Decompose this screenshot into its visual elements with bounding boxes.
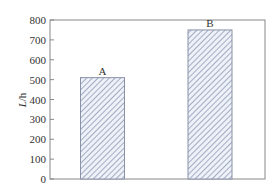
y-axis-label: L/h <box>16 92 28 108</box>
bar-chart: 0100200300400500600700800 AB L/h <box>0 0 280 194</box>
bar-b <box>188 30 232 179</box>
y-tick-label: 200 <box>30 133 47 145</box>
y-tick-label: 300 <box>30 113 47 125</box>
y-tick-label: 600 <box>30 54 47 66</box>
bar-label-b: B <box>206 17 213 29</box>
y-tick-label: 800 <box>30 14 47 26</box>
y-tick-label: 400 <box>30 94 47 106</box>
y-tick-label: 700 <box>30 34 47 46</box>
bar-a <box>81 78 125 179</box>
y-tick-label: 100 <box>30 153 47 165</box>
y-tick-label: 500 <box>30 74 47 86</box>
bars: AB <box>81 17 233 179</box>
bar-label-a: A <box>99 65 107 77</box>
y-tick-label: 0 <box>41 173 47 185</box>
